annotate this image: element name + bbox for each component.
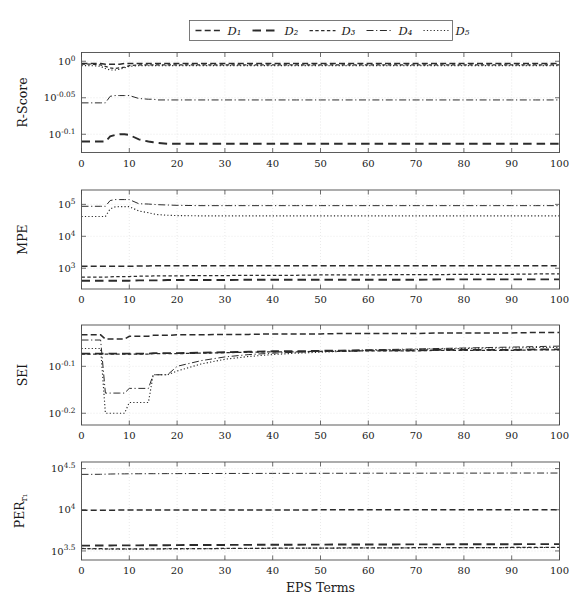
ylabel-per: PERr₁: [12, 494, 29, 528]
ytick-label: 103.5: [51, 543, 76, 556]
xtick-label: 0: [78, 158, 84, 169]
xtick-label: 70: [410, 158, 423, 169]
ylabel-sei: SEI: [15, 364, 30, 387]
xtick-label: 30: [219, 158, 232, 169]
xtick-label: 80: [458, 430, 471, 441]
xlabel-eps-terms: EPS Terms: [286, 580, 355, 595]
xtick-label: 70: [410, 430, 423, 441]
xtick-label: 10: [123, 294, 136, 305]
xtick-label: 100: [550, 158, 569, 169]
series-line-D3: [82, 274, 560, 277]
ytick-label: 103: [58, 261, 76, 274]
multi-panel-line-chart: D₁D₂D₃D₄D₅10010-0.0510-0.101020304050607…: [0, 0, 573, 608]
xtick-label: 50: [314, 294, 327, 305]
panel-sei: 10-0.110-0.20102030405060708090100SEI: [15, 325, 569, 441]
ytick-label: 10-0.1: [49, 359, 76, 372]
xtick-label: 50: [314, 158, 327, 169]
xtick-label: 50: [314, 430, 327, 441]
xtick-label: 40: [266, 158, 279, 169]
xtick-label: 100: [550, 294, 569, 305]
xtick-label: 90: [505, 294, 518, 305]
panel-per: 104.5104103.50102030405060708090100PERr₁: [12, 461, 569, 576]
xtick-label: 100: [550, 565, 569, 576]
xtick-label: 20: [171, 158, 184, 169]
series-line-D3: [82, 350, 560, 354]
ytick-label: 104: [58, 229, 76, 242]
legend-label-D4: D₄: [398, 24, 413, 38]
xtick-label: 0: [78, 565, 84, 576]
ytick-label: 100: [58, 54, 76, 67]
xtick-label: 10: [123, 158, 136, 169]
xtick-label: 0: [78, 294, 84, 305]
ytick-label: 10-0.05: [44, 90, 76, 103]
series-line-D2: [82, 134, 560, 143]
xtick-label: 60: [362, 430, 375, 441]
xtick-label: 70: [410, 294, 423, 305]
xtick-label: 90: [505, 565, 518, 576]
panel-r-score: 10010-0.0510-0.10102030405060708090100R-…: [15, 53, 569, 169]
xtick-label: 40: [266, 294, 279, 305]
xtick-label: 0: [78, 430, 84, 441]
panel-mpe: 1051041030102030405060708090100MPE: [15, 190, 569, 305]
series-line-D4: [82, 96, 560, 103]
xtick-label: 30: [219, 294, 232, 305]
series-line-D1: [82, 63, 560, 64]
xtick-label: 50: [314, 565, 327, 576]
ytick-label: 10-0.2: [49, 406, 76, 419]
xtick-label: 70: [410, 565, 423, 576]
xtick-label: 30: [219, 565, 232, 576]
xtick-label: 20: [171, 565, 184, 576]
series-line-D2: [82, 544, 560, 545]
xtick-label: 80: [458, 565, 471, 576]
xtick-label: 80: [458, 294, 471, 305]
legend-label-D3: D₃: [341, 24, 356, 38]
xtick-label: 100: [550, 430, 569, 441]
xtick-label: 60: [362, 565, 375, 576]
ytick-label: 105: [58, 197, 76, 210]
ytick-label: 104: [58, 502, 76, 515]
xtick-label: 10: [123, 565, 136, 576]
legend-label-D1: D₁: [227, 24, 242, 38]
xtick-label: 20: [171, 430, 184, 441]
figure-container: D₁D₂D₃D₄D₅10010-0.0510-0.101020304050607…: [0, 0, 573, 608]
xtick-label: 40: [266, 565, 279, 576]
legend-label-D5: D₅: [455, 24, 470, 38]
xtick-label: 40: [266, 430, 279, 441]
xtick-label: 90: [505, 158, 518, 169]
xtick-label: 60: [362, 158, 375, 169]
ytick-label: 104.5: [51, 461, 76, 474]
xtick-label: 30: [219, 430, 232, 441]
xtick-label: 60: [362, 294, 375, 305]
xtick-label: 80: [458, 158, 471, 169]
legend-label-D2: D₂: [284, 24, 299, 38]
ylabel-mpe: MPE: [15, 224, 30, 254]
xtick-label: 10: [123, 430, 136, 441]
xtick-label: 90: [505, 430, 518, 441]
ylabel-r-score: R-Score: [15, 77, 30, 127]
series-line-D1: [82, 333, 560, 340]
xtick-label: 20: [171, 294, 184, 305]
ytick-label: 10-0.1: [49, 127, 76, 140]
